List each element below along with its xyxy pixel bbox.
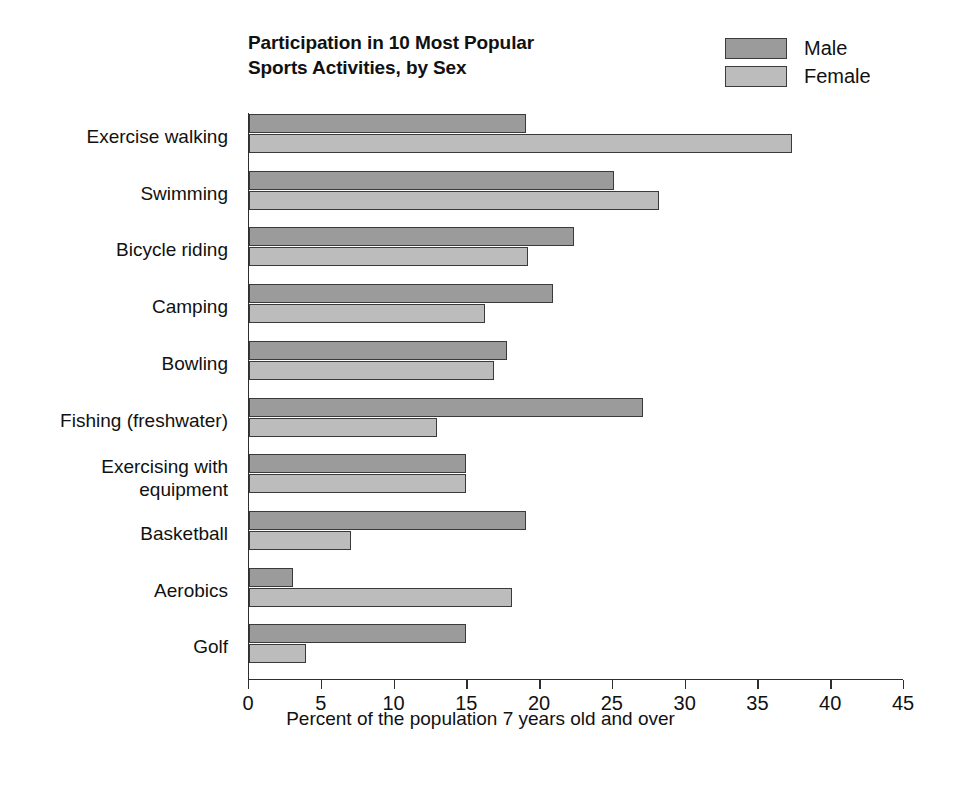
bar-female [249, 418, 437, 437]
bar-female [249, 247, 528, 266]
legend-label: Male [804, 37, 847, 60]
bar-male [249, 398, 643, 417]
plot-area: Exercise walkingSwimmingBicycle ridingCa… [248, 113, 903, 680]
bar-group [249, 398, 903, 453]
y-axis-label: Exercise walking [13, 125, 228, 148]
x-axis-tick [321, 680, 322, 689]
bar-group [249, 114, 903, 169]
y-axis-label: Aerobics [13, 579, 228, 602]
x-axis-title: Percent of the population 7 years old an… [0, 708, 961, 730]
chart-legend: MaleFemale [725, 34, 871, 90]
x-axis-tick [830, 680, 831, 689]
bar-group [249, 227, 903, 282]
legend-swatch-icon-male [725, 38, 787, 59]
x-axis-tick [685, 680, 686, 689]
bar-male [249, 227, 574, 246]
x-axis-tick [466, 680, 467, 689]
chart-title-line-1: Participation in 10 Most Popular [248, 30, 668, 55]
bar-male [249, 341, 507, 360]
y-axis-label: Basketball [13, 522, 228, 545]
y-axis-label: Camping [13, 295, 228, 318]
bar-group [249, 511, 903, 566]
bar-male [249, 511, 526, 530]
bar-female [249, 644, 306, 663]
bar-group [249, 284, 903, 339]
chart-title-line-2: Sports Activities, by Sex [248, 55, 668, 80]
bar-female [249, 134, 792, 153]
y-axis-label: Golf [13, 635, 228, 658]
bar-male [249, 284, 553, 303]
x-axis-tick [248, 680, 249, 689]
bar-female [249, 588, 512, 607]
x-axis-tick [757, 680, 758, 689]
bar-group [249, 624, 903, 679]
y-axis-label: Swimming [13, 182, 228, 205]
bar-male [249, 171, 614, 190]
bar-male [249, 454, 466, 473]
bar-male [249, 114, 526, 133]
legend-item-female: Female [725, 62, 871, 90]
y-axis-label: Exercising withequipment [13, 455, 228, 501]
y-axis-label: Bowling [13, 352, 228, 375]
y-axis-label: Fishing (freshwater) [13, 409, 228, 432]
bar-female [249, 304, 485, 323]
bar-group [249, 341, 903, 396]
legend-item-male: Male [725, 34, 871, 62]
bar-group [249, 568, 903, 623]
bar-group [249, 454, 903, 509]
bar-male [249, 568, 293, 587]
y-axis-label: Bicycle riding [13, 238, 228, 261]
x-axis-tick [903, 680, 904, 689]
sports-participation-chart: Participation in 10 Most Popular Sports … [0, 0, 961, 788]
chart-title: Participation in 10 Most Popular Sports … [248, 30, 668, 80]
bar-female [249, 361, 494, 380]
bar-group [249, 171, 903, 226]
x-axis-tick [394, 680, 395, 689]
bar-male [249, 624, 466, 643]
bar-female [249, 531, 351, 550]
x-axis-tick [539, 680, 540, 689]
legend-label: Female [804, 65, 871, 88]
bar-female [249, 474, 466, 493]
x-axis-tick [612, 680, 613, 689]
legend-swatch-icon-female [725, 66, 787, 87]
bar-female [249, 191, 659, 210]
